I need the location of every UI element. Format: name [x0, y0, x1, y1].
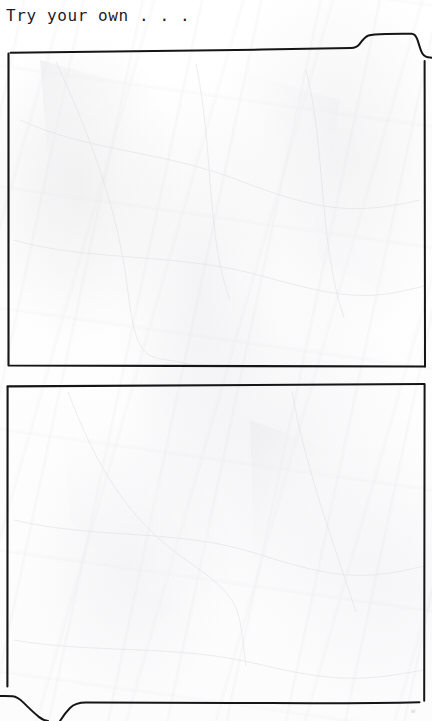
corner-mark: w [411, 707, 424, 716]
panel-two-drawing-area[interactable] [10, 389, 422, 699]
paper-page: Try your own . . . w [0, 0, 432, 721]
page-title: Try your own . . . [6, 6, 190, 26]
panel-one-drawing-area[interactable] [10, 56, 422, 362]
